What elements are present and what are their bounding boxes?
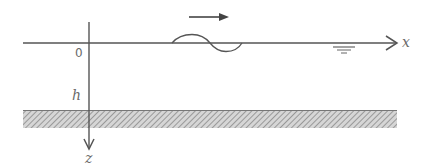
- depth-label: h: [72, 87, 81, 103]
- origin-label: 0: [75, 46, 83, 60]
- seabed: [23, 110, 397, 128]
- wave-diagram: x z 0 h: [0, 0, 430, 165]
- z-axis-label: z: [84, 150, 93, 165]
- propagation-arrow-icon: [189, 13, 229, 21]
- z-axis: [84, 22, 94, 149]
- water-level-icon: [333, 47, 355, 53]
- x-axis-label: x: [402, 34, 410, 50]
